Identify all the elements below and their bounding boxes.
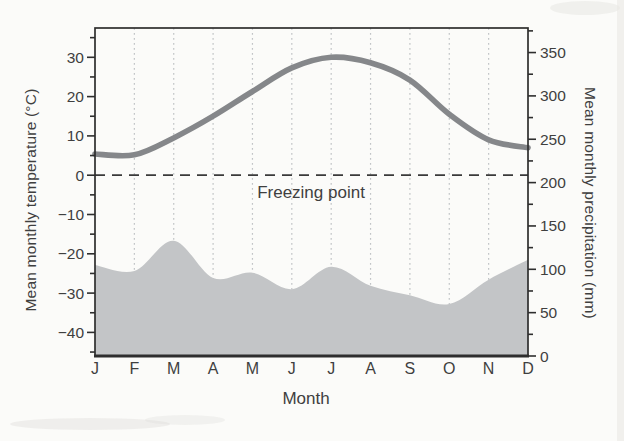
- scan-smudge: [617, 0, 624, 441]
- right-axis-tick-label: 150: [540, 217, 566, 234]
- right-axis-tick-label: 300: [540, 87, 566, 104]
- month-label: D: [522, 360, 534, 377]
- left-axis-tick-label: −10: [58, 206, 85, 223]
- left-axis-ticks: [87, 38, 95, 352]
- left-axis-tick-label: 0: [75, 167, 84, 184]
- left-axis-tick-label: 20: [67, 88, 85, 105]
- temperature-curve: [95, 57, 528, 156]
- precipitation-area: [95, 241, 528, 356]
- month-label: J: [327, 360, 335, 377]
- right-axis-tick-label: 50: [540, 304, 558, 321]
- right-axis-tick-label: 100: [540, 261, 566, 278]
- left-axis-title: Mean monthly temperature (°C): [22, 88, 39, 311]
- left-axis-tick-label: −30: [58, 285, 85, 302]
- right-axis-ticks: [528, 31, 536, 356]
- freezing-point-label: Freezing point: [257, 183, 365, 202]
- right-axis-title: Mean monthly precipitation (mm): [582, 87, 599, 319]
- month-label: A: [208, 360, 219, 377]
- month-label: S: [405, 360, 416, 377]
- month-label: J: [288, 360, 296, 377]
- right-axis-tick-label: 0: [540, 348, 549, 365]
- month-label: N: [483, 360, 495, 377]
- scan-smudge: [145, 415, 225, 425]
- month-label: M: [246, 360, 259, 377]
- month-label: M: [167, 360, 180, 377]
- scan-smudge: [550, 1, 620, 15]
- left-axis-tick-label: 30: [67, 49, 85, 66]
- month-label: A: [365, 360, 376, 377]
- month-label: F: [129, 360, 139, 377]
- right-axis-tick-label: 250: [540, 131, 566, 148]
- x-axis-title: Month: [282, 389, 329, 408]
- climate-chart: Freezing point3020100−10−20−30−403503002…: [0, 0, 624, 441]
- right-axis-tick-label: 350: [540, 44, 566, 61]
- left-axis-tick-label: −40: [58, 324, 85, 341]
- scanned-figure-page: Freezing point3020100−10−20−30−403503002…: [0, 0, 624, 441]
- month-label: J: [91, 360, 99, 377]
- month-label: O: [443, 360, 455, 377]
- left-axis-tick-label: 10: [67, 127, 85, 144]
- right-axis-tick-label: 200: [540, 174, 566, 191]
- left-axis-tick-label: −20: [58, 245, 85, 262]
